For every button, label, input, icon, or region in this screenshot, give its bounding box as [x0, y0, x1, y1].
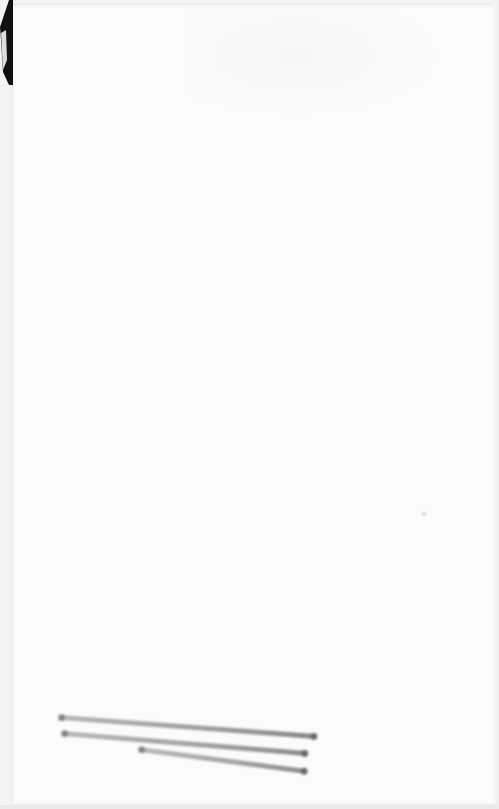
bleed-through-smudge — [190, 10, 450, 120]
paper-speck — [421, 510, 427, 518]
page-edge-bottom — [0, 805, 499, 809]
document-page — [12, 3, 496, 805]
page-edge-right — [494, 0, 499, 809]
corner-fold-shadow — [0, 0, 14, 90]
